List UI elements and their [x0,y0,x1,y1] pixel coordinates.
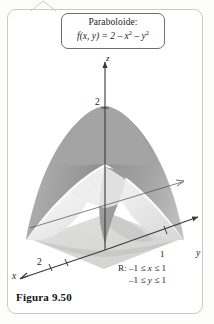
page-notch-icon [31,0,57,12]
equation-exponent-y: 2 [146,29,149,36]
axis-label-y: y [196,249,200,259]
region-line-x: R: –1 ≤ x ≤ 1 [118,262,166,274]
axis-label-z: z [106,54,110,63]
callout-equation: f(x, y) = 2 – x2 – y2 [62,29,164,43]
figure-page: Paraboloide: f(x, y) = 2 – x2 – y2 [0,0,214,324]
equation-callout: Paraboloide: f(x, y) = 2 – x2 – y2 [61,13,165,49]
equation-mid: – y [132,31,146,41]
axis-x [20,250,105,279]
callout-title: Paraboloide: [62,16,164,29]
equation-lhs: f(x, y) = 2 – x [77,31,129,41]
surface-plot [8,50,202,285]
region-annotation: R: –1 ≤ x ≤ 1 –1 ≤ y ≤ 1 [118,262,166,286]
axis-tick-z-2: 2 [95,98,100,108]
axis-label-x: x [12,272,16,282]
region-line-y: –1 ≤ y ≤ 1 [118,274,166,286]
region-y-suffix: ≤ 1 [152,275,166,285]
figure-caption: Figura 9.50 [16,291,72,303]
axis-tick-y-1: 1 [160,250,165,259]
region-x-suffix: ≤ 1 [152,263,166,273]
axis-tick-x-2: 2 [37,258,42,268]
region-y-prefix: –1 ≤ [129,275,148,285]
region-x-prefix: R: –1 ≤ [118,263,148,273]
